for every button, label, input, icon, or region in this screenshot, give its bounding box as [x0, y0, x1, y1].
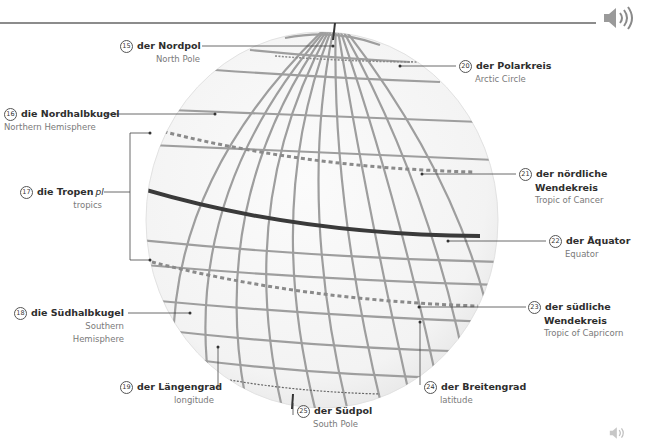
- label-tropics: 17die Tropenpl tropics: [20, 185, 102, 212]
- label-longitude: 19der Längengrad longitude: [120, 380, 214, 407]
- label-tropic-of-cancer: 21der nördliche Wendekreis Tropic of Can…: [519, 167, 607, 207]
- label-north-pole: 15der Nordpol North Pole: [120, 39, 200, 66]
- label-arctic-circle: 20der Polarkreis Arctic Circle: [459, 59, 551, 86]
- label-south-pole: 25der Südpol South Pole: [297, 404, 372, 431]
- label-equator: 22der Äquator Equator: [549, 234, 630, 261]
- label-southern-hemisphere: 18die Südhalbkugel Southern Hemisphere: [10, 306, 124, 346]
- label-latitude: 24der Breitengrad latitude: [424, 380, 526, 407]
- label-tropic-of-capricorn: 23der südliche Wendekreis Tropic of Capr…: [528, 300, 623, 340]
- label-north-pole-de: 15der Nordpol: [120, 39, 200, 53]
- label-north-pole-en: North Pole: [120, 53, 200, 66]
- label-northern-hemisphere: 16die Nordhalbkugel Northern Hemisphere: [4, 107, 120, 134]
